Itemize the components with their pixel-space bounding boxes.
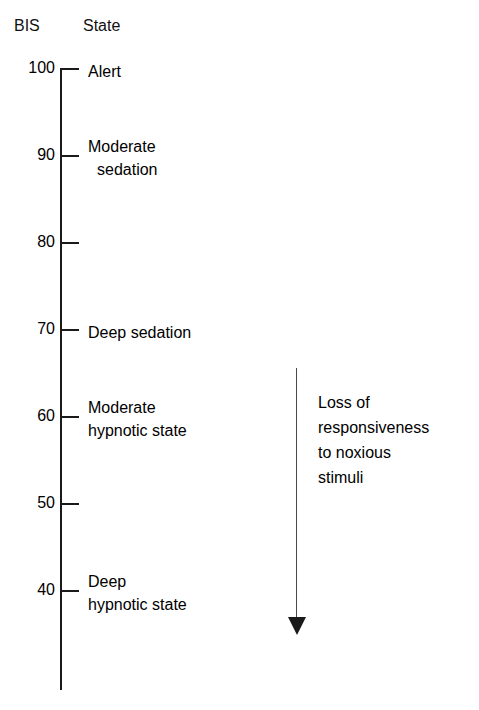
bis-scale-diagram: BIS State 100 90 80 70 60 50 40 Alert Mo… [0, 0, 479, 710]
tick-label-50: 50 [9, 495, 55, 511]
tick-label-70: 70 [9, 321, 55, 337]
state-label-deep-sedation-line1: Deep sedation [88, 324, 191, 341]
tick-mark-60 [60, 416, 79, 418]
tick-label-60: 60 [9, 408, 55, 424]
bis-axis-line [60, 68, 62, 690]
tick-mark-50 [60, 503, 79, 505]
annotation-line-1: Loss of [318, 390, 429, 415]
tick-label-80: 80 [9, 234, 55, 250]
down-arrow-icon-shaft [296, 368, 297, 620]
annotation-line-2: responsiveness [318, 415, 429, 440]
state-label-moderate-sedation-line1: Moderate [88, 138, 156, 155]
state-label-deep-sedation: Deep sedation [88, 321, 191, 344]
state-label-moderate-hypnotic-state: Moderate hypnotic state [88, 396, 187, 442]
tick-mark-100 [60, 68, 79, 70]
column-header-bis: BIS [14, 17, 40, 35]
annotation-loss-of-responsiveness: Loss of responsiveness to noxious stimul… [318, 390, 429, 490]
annotation-line-4: stimuli [318, 465, 429, 490]
state-label-deep-hypnotic-state-line2: hypnotic state [88, 593, 187, 616]
state-label-moderate-sedation: Moderate sedation [88, 135, 158, 181]
down-arrow-icon-head [288, 617, 306, 635]
state-label-alert-line1: Alert [88, 63, 121, 80]
state-label-moderate-sedation-line2: sedation [88, 158, 158, 181]
tick-mark-70 [60, 329, 79, 331]
column-header-state: State [83, 17, 120, 35]
state-label-deep-hypnotic-state-line1: Deep [88, 573, 126, 590]
state-label-alert: Alert [88, 60, 121, 83]
tick-mark-90 [60, 155, 79, 157]
state-label-moderate-hypnotic-state-line2: hypnotic state [88, 419, 187, 442]
tick-mark-40 [60, 590, 79, 592]
tick-label-40: 40 [9, 582, 55, 598]
tick-label-90: 90 [9, 147, 55, 163]
tick-mark-80 [60, 242, 79, 244]
annotation-line-3: to noxious [318, 440, 429, 465]
tick-label-100: 100 [9, 60, 55, 76]
state-label-moderate-hypnotic-state-line1: Moderate [88, 399, 156, 416]
state-label-deep-hypnotic-state: Deep hypnotic state [88, 570, 187, 616]
